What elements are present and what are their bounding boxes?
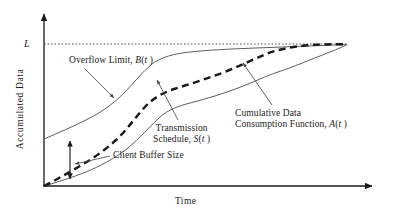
y-axis-tick-label-L: L xyxy=(24,38,30,49)
annotation-consumption-function-line2: Consumption Function, A(t ) xyxy=(235,119,347,130)
figure-container: Accumulated Data Time L Overflow Limit, … xyxy=(0,0,396,223)
annotation-overflow-limit: Overflow Limit, B(t ) xyxy=(69,55,153,66)
annotation-consumption-function: Cumulative DataConsumption Function, A(t… xyxy=(235,108,347,130)
annotation-client-buffer-size: Client Buffer Size xyxy=(113,150,184,161)
y-axis-label: Accumulated Data xyxy=(15,49,25,169)
x-axis-label: Time xyxy=(175,196,196,206)
leader-transmission-schedule xyxy=(157,80,178,120)
annotation-consumption-function-line1: Cumulative Data xyxy=(235,108,301,118)
leader-overflow-limit xyxy=(85,69,114,98)
annotation-transmission-schedule: TransmissionSchedule, S(t ) xyxy=(153,123,210,145)
annotation-transmission-schedule-line1: Transmission xyxy=(156,123,208,133)
annotation-transmission-schedule-line2: Schedule, S(t ) xyxy=(153,134,210,145)
